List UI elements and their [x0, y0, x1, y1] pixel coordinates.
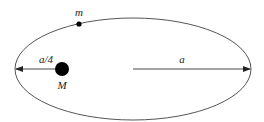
central-mass-label: M: [56, 79, 67, 91]
small-mass-label: m: [75, 6, 83, 18]
orbit-diagram: m M a/4 a: [0, 0, 264, 122]
orbiting-mass-body: [76, 21, 81, 26]
central-mass-body: [55, 62, 69, 76]
semi-major-axis-label: a: [179, 53, 185, 65]
distance-label: a/4: [39, 53, 54, 65]
